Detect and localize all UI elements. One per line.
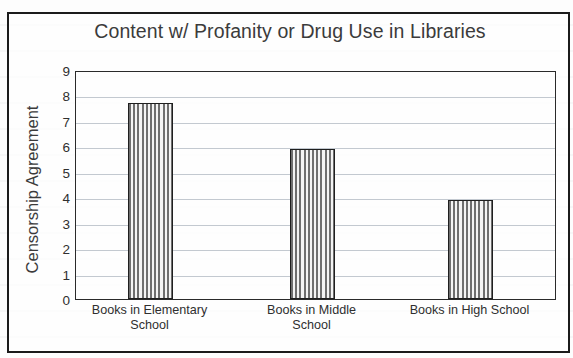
x-axis-tick-label-line: Books in Middle xyxy=(242,303,382,318)
x-axis-tick-label: Books in MiddleSchool xyxy=(242,303,382,333)
y-axis-tick-label: 6 xyxy=(48,140,70,155)
y-axis-tick-label: 8 xyxy=(48,89,70,104)
y-axis-tick-label: 1 xyxy=(48,267,70,282)
x-axis-tick-labels: Books in ElementarySchoolBooks in Middle… xyxy=(75,303,556,351)
bar xyxy=(290,149,335,299)
y-axis-tick-label: 9 xyxy=(48,64,70,79)
y-axis-tick-label: 4 xyxy=(48,191,70,206)
bar xyxy=(128,103,173,299)
gridline xyxy=(76,97,555,98)
x-axis-tick-label-line: Books in Elementary xyxy=(70,303,230,318)
x-axis-tick-label-line: School xyxy=(70,318,230,333)
x-axis-tick-label-line: School xyxy=(242,318,382,333)
chart-title: Content w/ Profanity or Drug Use in Libr… xyxy=(40,20,540,43)
x-axis-tick-label: Books in High School xyxy=(390,303,550,318)
y-axis-tick-label: 0 xyxy=(48,293,70,308)
x-axis-tick-label: Books in ElementarySchool xyxy=(70,303,230,333)
y-axis-tick-label: 5 xyxy=(48,165,70,180)
y-axis-tick-label: 2 xyxy=(48,242,70,257)
y-axis-tick-labels: 9876543210 xyxy=(44,71,70,300)
y-axis-tick-label: 7 xyxy=(48,114,70,129)
bar xyxy=(448,200,493,299)
y-axis-title: Censorship Agreement xyxy=(23,78,42,302)
y-axis-tick-label: 3 xyxy=(48,216,70,231)
plot-area xyxy=(75,71,556,300)
x-axis-tick-label-line: Books in High School xyxy=(390,303,550,318)
